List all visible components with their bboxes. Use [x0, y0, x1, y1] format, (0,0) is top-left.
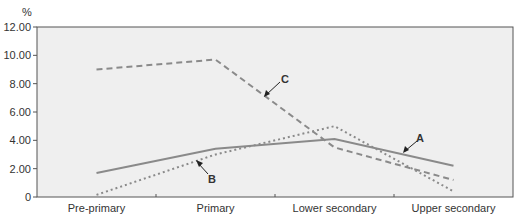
x-tick-label: Upper secondary [412, 202, 496, 214]
y-tick-label: 4.00 [10, 134, 31, 146]
x-tick-label: Pre-primary [68, 202, 126, 214]
y-tick-label: 6.00 [10, 106, 31, 118]
y-tick-label: 8.00 [10, 78, 31, 90]
line-chart: % 02.004.006.008.0010.0012.00 Pre-primar… [0, 0, 522, 224]
svg-text:C: C [281, 73, 289, 85]
x-tick-label: Lower secondary [293, 202, 377, 214]
y-tick-label: 0 [25, 191, 31, 203]
y-axis-unit: % [22, 6, 32, 18]
y-axis: 02.004.006.008.0010.0012.00 [3, 21, 37, 203]
svg-text:A: A [416, 132, 424, 144]
y-tick-label: 2.00 [10, 163, 31, 175]
y-tick-label: 12.00 [3, 21, 31, 33]
y-tick-label: 10.00 [3, 49, 31, 61]
svg-text:B: B [208, 173, 216, 185]
x-tick-label: Primary [197, 202, 235, 214]
